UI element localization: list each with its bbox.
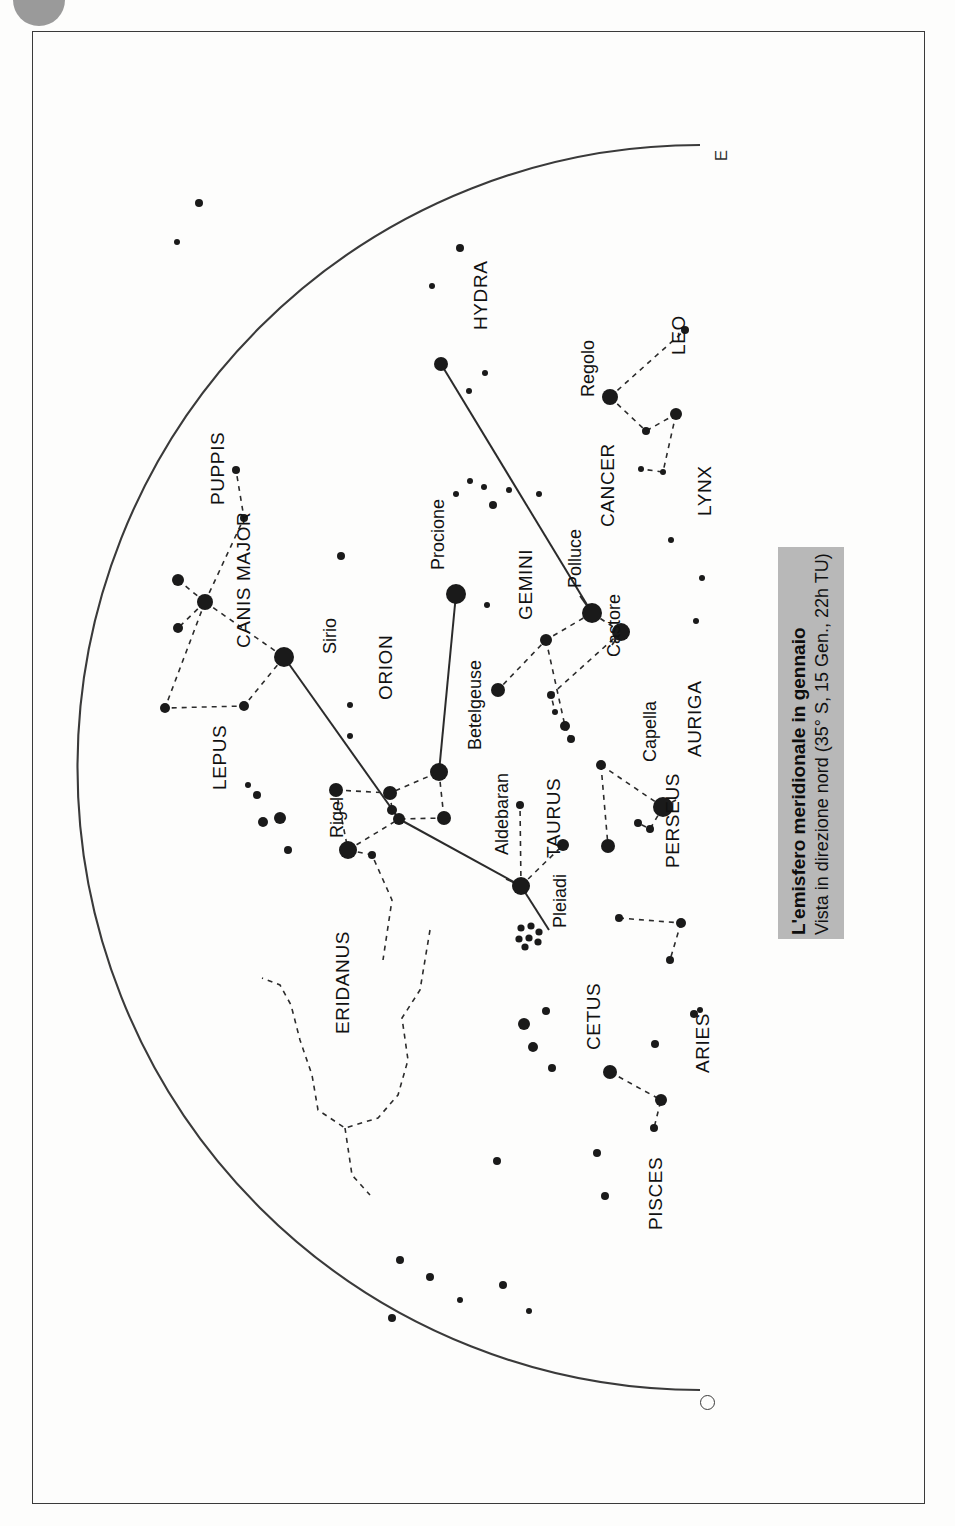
- star-dot: [596, 760, 606, 770]
- star-dot: [482, 370, 488, 376]
- star-dot: [516, 801, 524, 809]
- star-dot: [466, 388, 472, 394]
- pleiadi-star-dot: [525, 934, 532, 941]
- star-dot: [453, 491, 459, 497]
- star-dot: [339, 841, 357, 859]
- caption-box: L'emisfero meridionale in gennaio Vista …: [778, 547, 844, 939]
- star-dot: [253, 791, 261, 799]
- star-dot: [560, 721, 570, 731]
- bright-star-pointer-lines: [284, 364, 592, 930]
- star-dot: [160, 703, 170, 713]
- star-dot: [396, 1256, 404, 1264]
- star-dot: [542, 1007, 550, 1015]
- star-dot: [437, 811, 451, 825]
- star-dot: [526, 1308, 532, 1314]
- star-dot: [232, 466, 240, 474]
- star-dot: [638, 466, 644, 472]
- constellation-figure-lines: [165, 330, 685, 1195]
- star-dot: [615, 914, 623, 922]
- star-dot: [430, 763, 448, 781]
- pleiadi-star-dot: [517, 924, 524, 931]
- star-dot: [650, 1124, 658, 1132]
- star-dot: [387, 805, 397, 815]
- star-dot: [368, 851, 376, 859]
- star-dot: [347, 702, 353, 708]
- star-dot: [245, 782, 251, 788]
- star-dots: [160, 199, 705, 1322]
- star-dot: [670, 408, 682, 420]
- horizon-arc: [78, 145, 701, 1390]
- star-dot: [601, 839, 615, 853]
- star-dot: [240, 514, 248, 522]
- star-dot: [557, 839, 569, 851]
- star-dot: [567, 735, 575, 743]
- star-dot: [536, 491, 542, 497]
- pleiadi-cluster: [515, 922, 542, 950]
- star-dot: [493, 1157, 501, 1165]
- star-dot: [646, 825, 654, 833]
- star-dot: [690, 1010, 698, 1018]
- star-dot: [446, 584, 466, 604]
- star-dot: [602, 389, 618, 405]
- star-dot: [429, 283, 435, 289]
- star-dot: [467, 478, 473, 484]
- star-dot: [666, 956, 674, 964]
- star-dot: [668, 537, 674, 543]
- star-chart-page: HYDRALEOCANCERLYNXGEMINIPUPPISCANIS MAJO…: [0, 0, 955, 1526]
- star-dot: [388, 1314, 396, 1322]
- star-dot: [593, 1149, 601, 1157]
- star-dot: [258, 817, 268, 827]
- star-dot: [347, 733, 353, 739]
- star-dot: [284, 846, 292, 854]
- star-dot: [603, 1065, 617, 1079]
- pleiadi-star-dot: [515, 935, 522, 942]
- star-dot: [195, 199, 203, 207]
- star-dot: [457, 1297, 463, 1303]
- west-compass-marker: [700, 1395, 715, 1410]
- star-dot: [426, 1273, 434, 1281]
- star-dot: [518, 1018, 530, 1030]
- star-dot: [489, 501, 497, 509]
- star-dot: [172, 574, 184, 586]
- star-dot: [174, 239, 180, 245]
- star-dot: [651, 1040, 659, 1048]
- star-dot: [634, 819, 642, 827]
- pleiadi-star-dot: [534, 938, 541, 945]
- star-dot: [456, 244, 464, 252]
- star-dot: [676, 918, 686, 928]
- star-dot: [699, 575, 705, 581]
- star-dot: [239, 701, 249, 711]
- star-dot: [274, 647, 294, 667]
- star-dot: [491, 683, 505, 697]
- star-dot: [612, 623, 630, 641]
- star-dot: [601, 1192, 609, 1200]
- star-dot: [582, 603, 602, 623]
- star-dot: [697, 1007, 703, 1013]
- star-dot: [337, 552, 345, 560]
- star-name-leader-lines: [506, 596, 676, 886]
- caption-subtitle: Vista in direzione nord (35° S, 15 Gen.,…: [811, 547, 834, 935]
- star-dot: [642, 427, 650, 435]
- star-dot: [274, 812, 286, 824]
- star-dot: [681, 326, 689, 334]
- star-dot: [548, 1064, 556, 1072]
- star-dot: [499, 1281, 507, 1289]
- pleiadi-star-dot: [527, 922, 534, 929]
- star-dot: [512, 877, 530, 895]
- star-dot: [329, 783, 343, 797]
- star-dot: [173, 623, 183, 633]
- star-dot: [655, 1094, 667, 1106]
- star-dot: [552, 709, 558, 715]
- star-dot: [383, 786, 397, 800]
- pleiadi-star-dot: [535, 928, 542, 935]
- star-dot: [393, 813, 405, 825]
- star-dot: [547, 691, 555, 699]
- star-dot: [197, 594, 213, 610]
- star-dot: [528, 1042, 538, 1052]
- pleiadi-star-dot: [521, 943, 528, 950]
- star-dot: [434, 357, 448, 371]
- star-dot: [484, 602, 490, 608]
- star-dot: [540, 634, 552, 646]
- star-dot: [506, 487, 512, 493]
- star-dot: [481, 484, 487, 490]
